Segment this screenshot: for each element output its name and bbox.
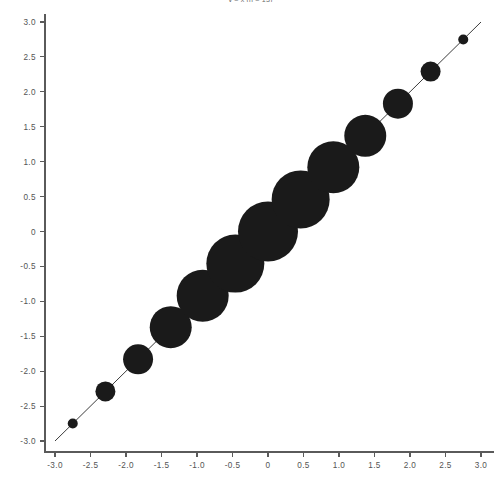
x-tick-label: 2.0: [404, 461, 417, 470]
x-tick-label: -1.0: [189, 461, 205, 470]
bubble-marker: [458, 34, 468, 44]
y-tick-label: -1.0: [20, 297, 36, 306]
y-tick-label: 1.0: [23, 158, 36, 167]
y-tick-label: 0: [31, 228, 36, 237]
y-tick-label: -2.5: [20, 402, 36, 411]
x-tick-label: 0.5: [297, 461, 310, 470]
x-axis-ticks: -3.0-2.5-2.0-1.5-1.0-0.500.51.01.52.02.5…: [47, 452, 487, 470]
y-tick-label: 0.5: [23, 193, 36, 202]
x-tick-label: -1.5: [154, 461, 170, 470]
x-tick-label: -3.0: [47, 461, 63, 470]
plot-canvas: 3.02.52.01.51.00.50-0.5-1.0-1.5-2.0-2.5-…: [0, 0, 501, 480]
y-tick-label: 3.0: [23, 18, 36, 27]
bubble-marker: [123, 344, 153, 374]
x-tick-label: 1.0: [333, 461, 346, 470]
bubble-chart-figure: y = x (n = 13) 3.02.52.01.51.00.50-0.5-1…: [0, 0, 501, 480]
bubble-marker: [344, 115, 386, 157]
x-tick-label: 0: [266, 461, 271, 470]
y-axis-ticks: 3.02.52.01.51.00.50-0.5-1.0-1.5-2.0-2.5-…: [20, 18, 45, 446]
bubble-marker: [383, 89, 413, 119]
bubble-marker: [95, 381, 115, 401]
x-tick-label: 2.5: [439, 461, 452, 470]
y-tick-label: 1.5: [23, 123, 36, 132]
bubble-marker: [68, 419, 78, 429]
y-tick-label: -1.5: [20, 332, 36, 341]
bubble-marker: [421, 62, 441, 82]
bubble-markers: [68, 34, 469, 428]
x-tick-label: -0.5: [225, 461, 241, 470]
x-tick-label: 3.0: [475, 461, 488, 470]
x-tick-label: -2.5: [83, 461, 99, 470]
y-tick-label: -3.0: [20, 437, 36, 446]
y-tick-label: 2.0: [23, 88, 36, 97]
x-tick-label: -2.0: [118, 461, 134, 470]
y-tick-label: -0.5: [20, 262, 36, 271]
y-tick-label: -2.0: [20, 367, 36, 376]
x-tick-label: 1.5: [368, 461, 381, 470]
y-tick-label: 2.5: [23, 53, 36, 62]
